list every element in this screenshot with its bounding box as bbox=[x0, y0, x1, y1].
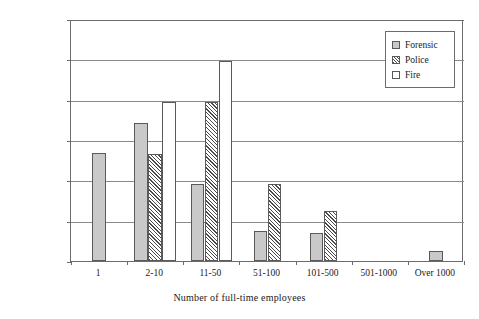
legend-label-fire: Fire bbox=[405, 70, 420, 80]
bar-police-2-10 bbox=[148, 154, 162, 261]
legend-item-forensic: Forensic bbox=[392, 37, 448, 52]
legend-label-police: Police bbox=[405, 55, 429, 65]
bar-forensic-1 bbox=[92, 153, 106, 261]
gridline bbox=[71, 181, 464, 182]
gridline bbox=[71, 141, 464, 142]
bar-forensic-over-1000 bbox=[429, 251, 443, 261]
bar-forensic-101-500 bbox=[310, 233, 324, 261]
x-tick-mark bbox=[127, 261, 128, 265]
bar-chart: Percentage of organizations 0%10%20%30%4… bbox=[0, 0, 479, 319]
y-tick-mark bbox=[67, 222, 71, 223]
x-tick-mark bbox=[352, 261, 353, 265]
x-tick-mark bbox=[239, 261, 240, 265]
plot-top-border bbox=[71, 20, 464, 21]
legend-label-forensic: Forensic bbox=[405, 40, 438, 50]
x-tick-mark bbox=[464, 261, 465, 265]
gridline bbox=[71, 101, 464, 102]
legend-swatch-forensic-icon bbox=[392, 41, 400, 49]
bar-fire-11-50 bbox=[219, 61, 233, 261]
chart-legend: Forensic Police Fire bbox=[385, 31, 455, 88]
bar-fire-2-10 bbox=[162, 102, 176, 261]
x-tick-label: Over 1000 bbox=[390, 268, 479, 278]
y-tick-mark bbox=[67, 20, 71, 21]
legend-swatch-police-icon bbox=[392, 56, 400, 64]
bar-forensic-2-10 bbox=[134, 123, 148, 261]
legend-swatch-fire-icon bbox=[392, 71, 400, 79]
bar-forensic-51-100 bbox=[254, 231, 268, 261]
y-tick-mark bbox=[67, 101, 71, 102]
bar-police-11-50 bbox=[205, 102, 219, 261]
bar-forensic-11-50 bbox=[191, 184, 205, 261]
x-tick-mark bbox=[296, 261, 297, 265]
y-tick-mark bbox=[67, 181, 71, 182]
y-tick-mark bbox=[67, 141, 71, 142]
x-tick-mark bbox=[183, 261, 184, 265]
legend-item-fire: Fire bbox=[392, 67, 448, 82]
x-axis-title: Number of full-time employees bbox=[0, 292, 479, 303]
legend-item-police: Police bbox=[392, 52, 448, 67]
bar-police-101-500 bbox=[324, 211, 338, 261]
y-tick-mark bbox=[67, 60, 71, 61]
bar-police-51-100 bbox=[268, 184, 282, 261]
x-tick-mark bbox=[71, 261, 72, 265]
x-tick-mark bbox=[408, 261, 409, 265]
